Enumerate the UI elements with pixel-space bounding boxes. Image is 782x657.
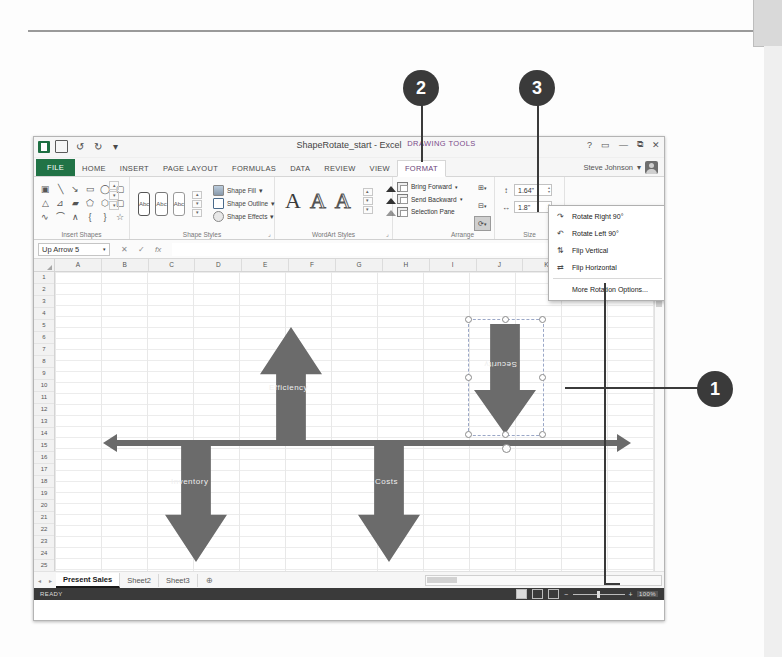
tab-view[interactable]: VIEW [363, 161, 397, 176]
shape-style-preview-3[interactable]: Abc [173, 192, 185, 216]
row-header-24[interactable]: 24 [34, 548, 54, 560]
column-header-e[interactable]: E [242, 259, 289, 271]
shape-brace-left-icon[interactable]: { [83, 210, 97, 223]
close-icon[interactable]: ✕ [652, 140, 660, 150]
select-all-corner[interactable] [34, 259, 55, 271]
shape-height-row[interactable]: ↕ 1.64" ▴▾ [501, 184, 560, 196]
rotation-handle[interactable] [502, 444, 511, 453]
tab-file[interactable]: FILE [36, 159, 75, 176]
tab-format[interactable]: FORMAT [397, 160, 446, 177]
shape-effects-chevron-icon[interactable]: ▾ [270, 213, 274, 221]
row-header-25[interactable]: 25 [34, 560, 54, 571]
gallery-scroll-down-icon[interactable]: ▾ [109, 191, 119, 200]
column-header-i[interactable]: I [430, 259, 477, 271]
selection-handle-sw[interactable] [465, 431, 472, 438]
align-group-rotate-buttons[interactable]: ⊞▾ ⊟▾ ⟳▾ [474, 180, 491, 231]
shape-rectangle-icon[interactable]: ▭ [83, 182, 97, 195]
shape-styles-gallery[interactable]: Abc Abc Abc ▴ ▾ ▾ Shape Fill ▾ Shape Out… [138, 185, 270, 222]
shape-style-preview-1[interactable]: Abc [138, 192, 150, 216]
sheet-tab-sheet3[interactable]: Sheet3 [159, 574, 198, 587]
page-layout-view-icon[interactable] [532, 589, 543, 599]
shape-down-arrow-inventory[interactable] [165, 444, 227, 562]
new-sheet-button[interactable]: ⊕ [198, 576, 221, 585]
horizontal-scrollbar-thumb[interactable] [427, 577, 457, 583]
column-header-b[interactable]: B [102, 259, 149, 271]
column-header-f[interactable]: F [289, 259, 336, 271]
normal-view-icon[interactable] [516, 589, 527, 599]
wordart-dialog-launcher[interactable]: ⌟ [386, 230, 389, 237]
zoom-slider[interactable]: − + 100% [564, 591, 658, 598]
selection-handle-nw[interactable] [465, 316, 472, 323]
shape-height-input[interactable]: 1.64" ▴▾ [514, 184, 552, 196]
bring-forward-chevron-icon[interactable]: ▾ [455, 184, 458, 190]
align-button[interactable]: ⊞▾ [474, 180, 491, 195]
shape-arrow-icon[interactable]: ↘ [68, 182, 82, 195]
shape-parallelogram-icon[interactable]: ▰ [68, 196, 82, 209]
shape-triangle-icon[interactable]: △ [38, 196, 52, 209]
user-account[interactable]: Steve Johnson ▾ [583, 161, 658, 174]
column-header-h[interactable]: H [383, 259, 430, 271]
zoom-out-button[interactable]: − [564, 591, 569, 598]
shape-down-arrow-costs[interactable] [358, 444, 420, 562]
restore-icon[interactable]: ⧉ [637, 139, 643, 150]
tab-review[interactable]: REVIEW [317, 161, 362, 176]
shape-styles-dialog-launcher[interactable]: ⌟ [268, 230, 271, 237]
cancel-formula-icon[interactable]: ✕ [121, 245, 128, 254]
selection-handle-se[interactable] [539, 431, 546, 438]
wordart-preview-2[interactable]: A [310, 188, 326, 214]
menu-item-flip-vertical[interactable]: ⇅ Flip Vertical [549, 242, 665, 259]
shape-width-input[interactable]: 1.8" ▴▾ [514, 201, 552, 213]
selection-handle-n[interactable] [502, 316, 509, 323]
ribbon-tabs[interactable]: FILE HOME INSERT PAGE LAYOUT FORMULAS DA… [34, 158, 664, 176]
shape-outline-button[interactable]: Shape Outline ▾ [213, 198, 275, 209]
column-header-c[interactable]: C [149, 259, 196, 271]
sheet-nav-next-icon[interactable]: ▸ [45, 577, 56, 584]
rotate-button[interactable]: ⟳▾ [474, 216, 491, 231]
selection-handle-ne[interactable] [539, 316, 546, 323]
shape-fill-button[interactable]: Shape Fill ▾ [213, 185, 275, 196]
menu-item-more-rotation-options[interactable]: More Rotation Options... [549, 281, 665, 298]
shape-line-icon[interactable]: ╲ [53, 182, 67, 195]
row-header-11[interactable]: 11 [34, 392, 54, 404]
rotate-dropdown-menu[interactable]: ↷ Rotate Right 90° ↶ Rotate Left 90° ⇅ F… [548, 205, 665, 301]
wordart-scroll-up-icon[interactable]: ▴ [363, 188, 373, 196]
page-break-preview-icon[interactable] [548, 589, 559, 599]
gallery-more-icon[interactable]: ▾ [109, 201, 119, 210]
selection-handle-e[interactable] [539, 374, 546, 381]
row-header-19[interactable]: 19 [34, 488, 54, 500]
row-header-10[interactable]: 10 [34, 380, 54, 392]
gallery-scroll-controls[interactable]: ▴ ▾ ▾ [109, 181, 119, 210]
shape-curve-icon[interactable]: ∿ [38, 210, 52, 223]
enter-formula-icon[interactable]: ✓ [138, 245, 145, 254]
shape-right-triangle-icon[interactable]: ⊿ [53, 196, 67, 209]
name-box-chevron-down-icon[interactable]: ▾ [103, 246, 106, 252]
sheet-nav-prev-icon[interactable]: ◂ [34, 577, 45, 584]
row-header-15[interactable]: 15 [34, 440, 54, 452]
wordart-scroll-down-icon[interactable]: ▾ [363, 197, 373, 205]
row-header-18[interactable]: 18 [34, 476, 54, 488]
sheet-tab-present-sales[interactable]: Present Sales [56, 573, 120, 588]
shape-arc-icon[interactable]: ⌒ [53, 210, 67, 223]
row-header-3[interactable]: 3 [34, 296, 54, 308]
tab-insert[interactable]: INSERT [113, 161, 156, 176]
row-header-6[interactable]: 6 [34, 332, 54, 344]
column-header-g[interactable]: G [336, 259, 383, 271]
zoom-in-button[interactable]: + [629, 591, 634, 598]
row-header-14[interactable]: 14 [34, 428, 54, 440]
column-header-j[interactable]: J [477, 259, 524, 271]
menu-item-rotate-left-90[interactable]: ↶ Rotate Left 90° [549, 225, 665, 242]
formula-bar-buttons[interactable]: ✕ ✓ fx [115, 245, 167, 254]
row-header-1[interactable]: 1 [34, 272, 54, 284]
styles-scroll-up-icon[interactable]: ▴ [192, 191, 202, 199]
zoom-knob[interactable] [597, 591, 600, 598]
shape-star-icon[interactable]: ☆ [113, 210, 127, 223]
shape-fill-chevron-icon[interactable]: ▾ [259, 187, 263, 195]
wordart-gallery[interactable]: A A A ▴ ▾ ▾ ▾ ▾ ▾ [285, 184, 388, 217]
selection-handle-w[interactable] [465, 374, 472, 381]
row-header-17[interactable]: 17 [34, 464, 54, 476]
zoom-track[interactable] [573, 594, 625, 595]
gallery-scroll-up-icon[interactable]: ▴ [109, 181, 119, 190]
shape-pentagon-icon[interactable]: ⬠ [83, 196, 97, 209]
tab-page-layout[interactable]: PAGE LAYOUT [156, 161, 225, 176]
insert-function-icon[interactable]: fx [155, 245, 161, 254]
